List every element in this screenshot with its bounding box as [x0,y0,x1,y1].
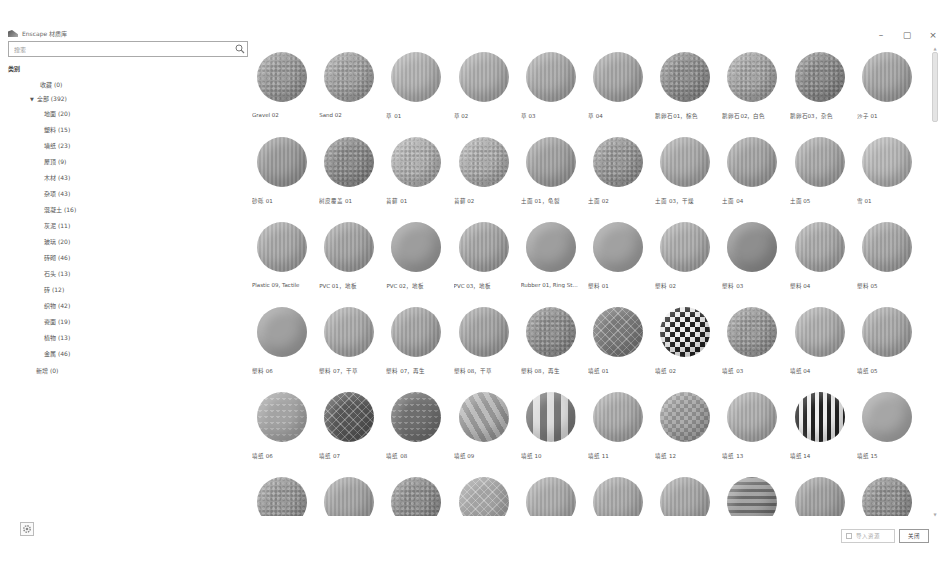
material-tile[interactable]: 墙纸 06 [250,386,314,468]
sidebar-item-category[interactable]: 杂项 (43) [44,189,70,198]
material-tile[interactable] [519,471,583,516]
sidebar-item-category[interactable]: 瓷面 (19) [44,317,70,326]
material-tile[interactable]: Rubber 01, Ring St... [519,216,583,298]
scroll-up-arrow-icon[interactable]: ▲ [932,46,938,50]
material-tile[interactable]: 墙纸 09 [452,386,516,468]
scrollbar-thumb[interactable] [932,52,938,122]
import-icon [846,533,852,539]
material-tile[interactable]: 塑料 04 [788,216,852,298]
sidebar-item-category[interactable]: 金属 (46) [44,349,70,358]
search-icon [235,44,245,54]
material-tile[interactable]: 塑料 06 [250,301,314,383]
sidebar-item-category[interactable]: 屋顶 (9) [44,157,66,166]
material-tile[interactable]: 墙纸 13 [720,386,784,468]
material-tile[interactable]: 土面 04 [720,131,784,213]
material-tile[interactable]: 塑料 07，再生 [384,301,448,383]
maximize-button[interactable]: ▢ [902,30,912,40]
material-preview-sphere [862,52,912,102]
sidebar-item-favorites[interactable]: 收藏 (0) [40,80,62,89]
material-tile[interactable]: Gravel 02 [250,46,314,128]
sidebar-item-category[interactable]: 混凝土 (16) [44,205,76,214]
material-tile[interactable]: 墙纸 03 [720,301,784,383]
material-tile[interactable]: 墙纸 14 [788,386,852,468]
material-tile[interactable]: 墙纸 12 [653,386,717,468]
material-tile[interactable]: 墙纸 08 [384,386,448,468]
minimize-button[interactable]: – [876,30,886,40]
material-tile[interactable]: 鹅卵石03，杂色 [788,46,852,128]
import-resources-button[interactable]: 导入资源 [841,529,895,543]
material-tile[interactable]: 土面 03，干燥 [653,131,717,213]
material-label: 墙纸 02 [655,367,719,375]
material-tile[interactable] [384,471,448,516]
material-tile[interactable]: 塑料 08，再生 [519,301,583,383]
material-preview-sphere [795,307,845,357]
sidebar-item-category[interactable]: 砖 (12) [44,285,64,294]
material-tile[interactable] [317,471,381,516]
material-tile[interactable]: 草 03 [519,46,583,128]
material-tile[interactable]: 土面 01，龟裂 [519,131,583,213]
sidebar-item-category[interactable]: 砖砌 (46) [44,253,70,262]
material-tile[interactable]: 土面 02 [586,131,650,213]
material-tile[interactable]: PVC 02，地板 [384,216,448,298]
material-tile[interactable]: 砂砾 01 [250,131,314,213]
material-tile[interactable]: 雪 01 [855,131,919,213]
material-tile[interactable]: PVC 01，地板 [317,216,381,298]
sidebar-item-category[interactable]: 墙纸 (23) [44,141,70,150]
sidebar-item-new[interactable]: 新增 (0) [36,366,58,375]
sidebar-item-category[interactable]: 玻璃 (20) [44,237,70,246]
material-tile[interactable]: 墙纸 10 [519,386,583,468]
material-tile[interactable]: 沙子 01 [855,46,919,128]
settings-button[interactable] [20,522,34,536]
material-tile[interactable]: Sand 02 [317,46,381,128]
material-tile[interactable]: 墙纸 11 [586,386,650,468]
material-tile[interactable]: 苔藓 02 [452,131,516,213]
material-tile[interactable] [653,471,717,516]
scroll-down-arrow-icon[interactable]: ▼ [932,512,938,516]
material-tile[interactable]: 苔藓 01 [384,131,448,213]
sidebar-item-category[interactable]: 灰泥 (11) [44,221,70,230]
material-tile[interactable]: Plastic 09, Tactile [250,216,314,298]
material-label: Rubber 01, Ring St... [521,282,585,288]
material-tile[interactable]: 塑料 07，干草 [317,301,381,383]
material-tile[interactable]: 墙纸 15 [855,386,919,468]
material-tile[interactable]: 塑料 01 [586,216,650,298]
material-tile[interactable]: 塑料 08，干草 [452,301,516,383]
sidebar-item-category[interactable]: 植物 (13) [44,333,70,342]
material-tile[interactable] [855,471,919,516]
material-tile[interactable]: 塑料 03 [720,216,784,298]
material-tile[interactable]: 塑料 02 [653,216,717,298]
material-tile[interactable]: 墙纸 02 [653,301,717,383]
sidebar-item-category[interactable]: 木材 (43) [44,173,70,182]
sidebar-item-category[interactable]: 石头 (13) [44,269,70,278]
material-tile[interactable] [250,471,314,516]
close-window-button[interactable]: × [928,30,938,40]
material-tile[interactable]: 墙纸 05 [855,301,919,383]
material-tile[interactable]: 草 01 [384,46,448,128]
material-tile[interactable]: 塑料 05 [855,216,919,298]
material-tile[interactable]: 墙纸 07 [317,386,381,468]
material-tile[interactable]: 树皮覆盖 01 [317,131,381,213]
close-button[interactable]: 关闭 [899,529,929,543]
sidebar-item-all[interactable]: ▼全部 (392) [30,94,67,103]
sidebar-item-category[interactable]: 织物 (42) [44,301,70,310]
material-tile[interactable]: 墙纸 04 [788,301,852,383]
material-label: 塑料 01 [588,282,652,290]
material-tile[interactable] [586,471,650,516]
search-input[interactable] [9,42,233,56]
material-tile[interactable] [788,471,852,516]
search-button[interactable] [233,42,247,56]
sidebar-item-category[interactable]: 地面 (20) [44,109,70,118]
material-tile[interactable] [720,471,784,516]
material-tile[interactable]: 墙纸 01 [586,301,650,383]
material-tile[interactable]: 草 04 [586,46,650,128]
material-tile[interactable]: 土面 05 [788,131,852,213]
material-tile[interactable]: 鹅卵石01，棕色 [653,46,717,128]
material-tile[interactable]: PVC 03，地板 [452,216,516,298]
material-label: 塑料 06 [252,367,316,375]
material-preview-sphere [593,392,643,442]
sidebar-item-category[interactable]: 塑料 (15) [44,125,70,134]
grid-scrollbar[interactable]: ▲ ▼ [932,46,938,516]
material-tile[interactable] [452,471,516,516]
material-tile[interactable]: 鹅卵石02，白色 [720,46,784,128]
material-tile[interactable]: 草 02 [452,46,516,128]
